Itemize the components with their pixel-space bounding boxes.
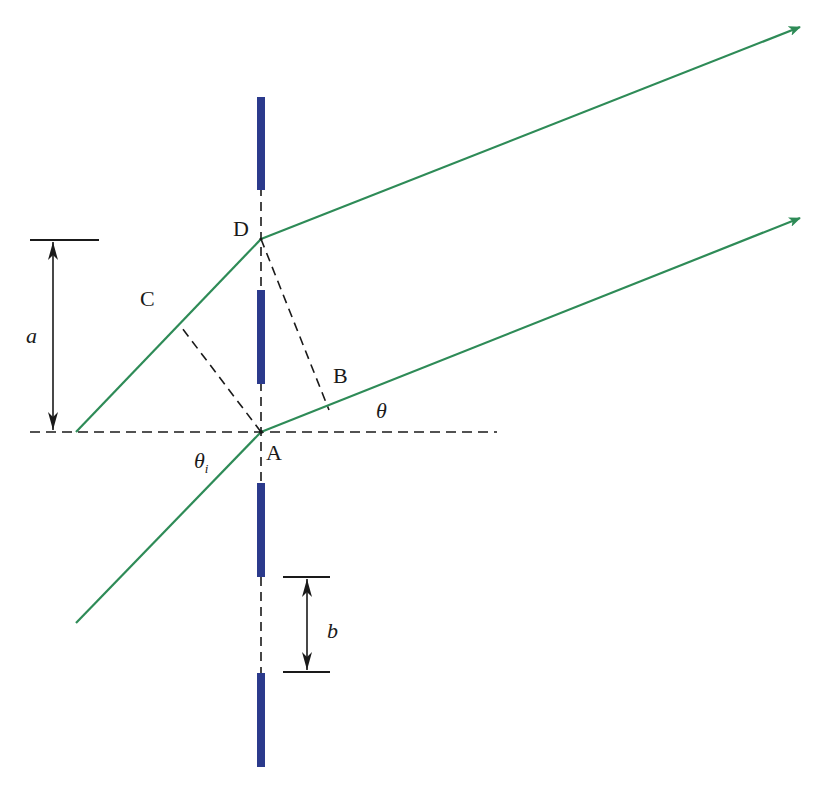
diffracted-ray-upper (261, 27, 800, 239)
label-point-c: C (140, 286, 155, 311)
label-dimension-b: b (327, 618, 338, 643)
label-angle-theta: θ (376, 398, 387, 423)
grating-diffraction-diagram: D C B A θ θi a b (0, 0, 830, 789)
incident-ray-upper (76, 239, 261, 432)
label-point-d: D (233, 216, 249, 241)
label-angle-theta-i-subscript: i (205, 461, 209, 476)
path-difference-line-ac (179, 324, 261, 432)
incident-ray-lower (76, 432, 261, 623)
grating-bar-2 (257, 290, 265, 384)
dimension-a (30, 240, 99, 430)
label-angle-theta-i: θi (194, 448, 209, 476)
point-d-marker (259, 237, 262, 240)
grating-bar-4 (257, 673, 265, 767)
label-dimension-a: a (26, 323, 37, 348)
label-point-b: B (333, 363, 348, 388)
grating-bar-3 (257, 483, 265, 577)
grating-bar-1 (257, 97, 265, 190)
path-difference-line-db (261, 239, 329, 410)
label-point-a: A (266, 440, 282, 465)
dimension-b (283, 577, 330, 672)
point-a-marker (259, 430, 263, 434)
diffracted-ray-lower (261, 218, 800, 432)
label-angle-theta-i-symbol: θ (194, 448, 205, 473)
